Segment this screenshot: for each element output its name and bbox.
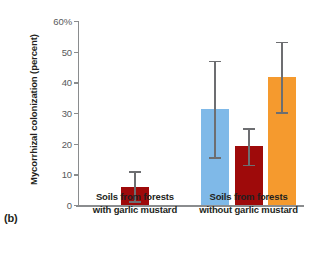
error-bar-line xyxy=(281,42,282,113)
error-bar-cap-low xyxy=(243,165,255,166)
plot-area: 0102030405060% xyxy=(78,21,304,205)
error-bar-cap-high xyxy=(276,42,288,43)
y-axis-title: Mycorrhizal colonization (percent) xyxy=(28,15,39,205)
x-category-label-line: with garlic mustard xyxy=(76,204,194,217)
error-bar-cap-high xyxy=(129,171,141,172)
y-tick-mark xyxy=(74,52,79,53)
y-tick-mark xyxy=(74,144,79,145)
error-bar-cap-high xyxy=(243,128,255,129)
y-tick-label: 10 xyxy=(62,169,72,180)
error-bar-cap-high xyxy=(209,61,221,62)
figure-panel-b: (b) Mycorrhizal colonization (percent) 0… xyxy=(0,0,312,253)
x-category-label-line: Soils from forests xyxy=(190,191,308,204)
y-tick-label: 0 xyxy=(67,200,72,211)
y-tick-label: 30 xyxy=(62,108,72,119)
x-category-label-1: Soils from forestswithout garlic mustard xyxy=(190,191,308,216)
y-tick-mark xyxy=(74,21,79,22)
panel-label: (b) xyxy=(4,212,17,224)
y-tick-label: 60% xyxy=(53,16,72,27)
y-tick-label: 20 xyxy=(62,138,72,149)
y-tick-mark xyxy=(74,174,79,175)
y-tick-mark xyxy=(74,82,79,83)
y-tick-label: 50 xyxy=(62,46,72,57)
x-category-label-line: Soils from forests xyxy=(76,191,194,204)
error-bar-cap-low xyxy=(276,112,288,113)
y-tick-label: 40 xyxy=(62,77,72,88)
x-category-label-0: Soils from forestswith garlic mustard xyxy=(76,191,194,216)
error-bar-cap-low xyxy=(209,157,221,158)
y-tick-mark xyxy=(74,113,79,114)
x-category-label-line: without garlic mustard xyxy=(190,204,308,217)
error-bar-line xyxy=(214,61,215,158)
error-bar-line xyxy=(248,128,249,164)
